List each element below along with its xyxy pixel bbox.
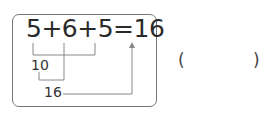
- answer-close-paren: ): [253, 50, 260, 70]
- partial-sum-16: 16: [44, 84, 62, 100]
- answer-blank[interactable]: [190, 50, 252, 70]
- answer-open-paren: (: [178, 50, 185, 70]
- partial-sum-10: 10: [31, 57, 49, 73]
- arrow-icon: [129, 42, 135, 48]
